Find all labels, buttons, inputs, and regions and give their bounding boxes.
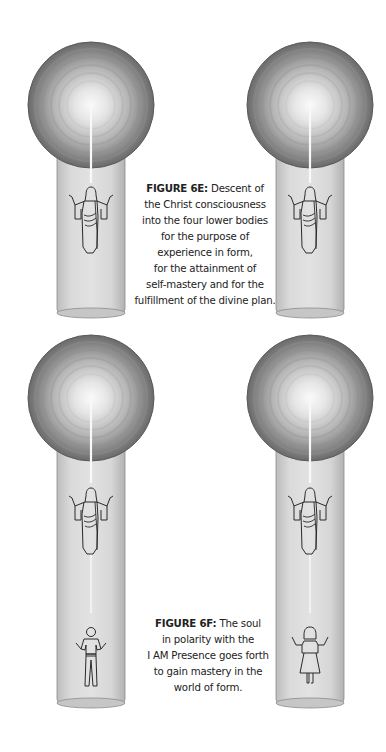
caption-line: I AM Presence goes forth — [140, 648, 276, 664]
caption-line: The soul — [216, 618, 260, 629]
caption-line: experience in form, — [130, 245, 280, 261]
caption-line: in polarity with the — [140, 632, 276, 648]
caption-line: into the four lower bodies — [130, 213, 280, 229]
figure-6e-caption: FIGURE 6E: Descent of the Christ conscio… — [130, 181, 280, 309]
figure-6e-label: FIGURE 6E: — [146, 183, 208, 194]
caption-line: for the purpose of — [130, 229, 280, 245]
caption-line: for the attainment of — [130, 261, 280, 277]
caption-line: world of form. — [140, 680, 276, 696]
figure-6f-label: FIGURE 6F: — [155, 618, 216, 629]
caption-line: fulfillment of the divine plan. — [130, 293, 280, 309]
caption-line: to gain mastery in the — [140, 664, 276, 680]
caption-line: Descent of — [208, 183, 264, 194]
caption-line: self-mastery and for the — [130, 277, 280, 293]
figure-6f-caption: FIGURE 6F: The soul in polarity with the… — [140, 616, 276, 696]
caption-line: the Christ consciousness — [130, 197, 280, 213]
